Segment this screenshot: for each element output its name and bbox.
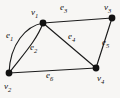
vertex-label-v4: v4	[97, 74, 104, 85]
vertex-dot-v4	[93, 65, 100, 72]
edge-label-e5: e5	[102, 38, 109, 49]
edge-e4	[43, 23, 96, 68]
vertex-dot-v1	[40, 20, 47, 27]
edge-e1	[9, 23, 43, 73]
vertex-label-v2: v2	[4, 82, 11, 93]
edge-label-e1: e1	[6, 31, 13, 42]
edge-e3	[43, 18, 112, 23]
edge-label-e3: e3	[60, 3, 67, 14]
vertex-dot-v3	[109, 15, 116, 22]
vertex-label-v1: v1	[31, 8, 38, 19]
vertex-dot-v2	[6, 70, 13, 77]
vertex-label-v3: v3	[104, 3, 111, 14]
edge-label-e6: e6	[46, 71, 53, 82]
graph-diagram: v1 v2 v3 v4 e1 e2 e3 e4 e5 e6	[0, 0, 120, 98]
edge-label-e4: e4	[68, 32, 75, 43]
vertex-layer	[6, 15, 116, 77]
edge-label-e2: e2	[30, 43, 37, 54]
